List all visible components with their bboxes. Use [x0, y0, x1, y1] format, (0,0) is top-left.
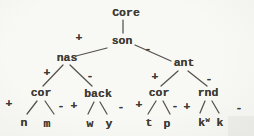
edge-cor-p	[163, 101, 170, 114]
edge-ant-rnd	[188, 71, 207, 86]
scanned-tree-figure: Core son nas ant cor back cor rnd + - + …	[0, 0, 254, 136]
leaf-n: n	[21, 117, 28, 129]
sign-back-minus: -	[118, 101, 125, 113]
sign-cor-left-plus: +	[6, 98, 13, 110]
leaf-p: p	[164, 118, 171, 130]
node-cor-right: cor	[149, 87, 170, 99]
node-ant: ant	[174, 57, 195, 69]
leaf-k: k	[217, 117, 224, 129]
leaf-y: y	[106, 118, 113, 130]
edge-son-nas	[76, 48, 107, 56]
node-nas: nas	[57, 52, 78, 64]
sign-back-plus: +	[71, 100, 78, 112]
sign-rnd-plus: +	[184, 101, 191, 113]
edge-back-w	[88, 102, 94, 114]
node-cor-left: cor	[31, 87, 52, 99]
scan-shading-artifact	[228, 116, 254, 136]
sign-son-minus: -	[145, 43, 152, 55]
edge-cor-m	[45, 101, 54, 114]
sign-ant-minus: -	[206, 73, 213, 85]
sign-son-plus: +	[76, 32, 83, 44]
edge-ant-cor	[161, 71, 178, 86]
sign-nas-minus: -	[87, 70, 94, 82]
node-back: back	[84, 88, 112, 100]
leaf-t: t	[146, 117, 153, 129]
sign-ant-plus: +	[152, 71, 159, 83]
node-core: Core	[112, 7, 140, 19]
node-rnd: rnd	[198, 87, 219, 99]
edge-cor-n	[27, 101, 37, 114]
sign-cor-right-minus: -	[172, 100, 179, 112]
sign-nas-plus: +	[44, 67, 51, 79]
leaf-w: w	[87, 118, 94, 130]
leaf-m: m	[44, 118, 51, 130]
sign-cor-left-minus: -	[58, 100, 65, 112]
edge-cor-t	[148, 101, 156, 114]
leaf-kw: kw	[198, 117, 210, 129]
edge-son-ant	[135, 45, 171, 61]
leaf-kw-superscript: w	[206, 116, 210, 124]
node-son: son	[112, 35, 133, 47]
edge-back-y	[100, 102, 107, 114]
edge-rnd-kw	[200, 101, 205, 113]
leaf-kw-base: k	[198, 116, 205, 129]
edge-rnd-k	[212, 101, 219, 113]
sign-cor-right-plus: +	[136, 99, 143, 111]
sign-rnd-minus: -	[236, 102, 243, 114]
